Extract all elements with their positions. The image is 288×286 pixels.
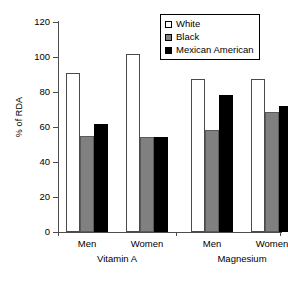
y-axis-tick-label: 0 <box>0 227 50 237</box>
x-axis-tick <box>176 232 177 236</box>
legend-item-label: White <box>176 19 200 29</box>
y-axis-title: % of RDA <box>14 72 24 162</box>
x-axis-category-label: Women <box>117 239 177 249</box>
y-axis-tick-label: 80 <box>0 87 50 97</box>
bar-black-vitamin-a-women <box>140 137 154 232</box>
bar-white-magnesium-men <box>191 79 205 232</box>
y-axis-tick-label: 40 <box>0 157 50 167</box>
legend-item: Black <box>165 31 254 43</box>
x-axis-category-label: Women <box>242 239 288 249</box>
y-axis-tick-label: 20 <box>0 192 50 202</box>
bar-black-magnesium-women <box>265 112 279 232</box>
legend-item-label: Black <box>176 32 199 42</box>
y-axis-tick-label: 60 <box>0 122 50 132</box>
bar-mexican-american-magnesium-women <box>279 106 288 232</box>
bar-mexican-american-magnesium-men <box>219 95 233 232</box>
x-axis-group-label: Magnesium <box>187 254 288 264</box>
bar-white-magnesium-women <box>251 79 265 232</box>
x-axis-tick <box>280 232 281 236</box>
legend-item: White <box>165 18 254 30</box>
black-square-icon <box>165 47 172 54</box>
bar-black-magnesium-men <box>205 130 219 232</box>
white-square-icon <box>165 21 172 28</box>
x-axis-line <box>58 232 282 233</box>
bar-chart: % of RDA 020406080100120 MenWomenMenWome… <box>0 0 288 286</box>
bar-mexican-american-vitamin-a-women <box>154 137 168 232</box>
y-axis-tick-label: 100 <box>0 52 50 62</box>
legend-item: Mexican American <box>165 44 254 56</box>
x-axis-category-label: Men <box>57 239 117 249</box>
bar-white-vitamin-a-men <box>66 73 80 232</box>
bar-white-vitamin-a-women <box>126 54 140 233</box>
x-axis-tick <box>58 232 59 236</box>
legend: WhiteBlackMexican American <box>160 14 260 60</box>
x-axis-group-label: Vitamin A <box>62 254 172 264</box>
bar-mexican-american-vitamin-a-men <box>94 124 108 232</box>
gray-square-icon <box>165 34 172 41</box>
legend-item-label: Mexican American <box>176 45 254 55</box>
x-axis-category-label: Men <box>182 239 242 249</box>
y-axis-tick-label: 120 <box>0 17 50 27</box>
bar-black-vitamin-a-men <box>80 136 94 232</box>
